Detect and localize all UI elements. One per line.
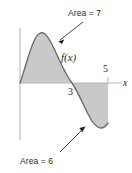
function-label: f(x) [61, 52, 76, 63]
area-top-label: Area = 7 [68, 9, 101, 18]
x-tick-label-3: 3 [68, 87, 73, 97]
figure-container: Area = 7 Area = 6 f(x) x 3 5 [0, 0, 132, 173]
area-7-arrow [58, 22, 83, 44]
area-under-curve-chart [0, 0, 132, 173]
x-axis-label: x [123, 78, 127, 88]
x-tick-label-5: 5 [103, 64, 108, 74]
lower-shaded-area [72, 83, 108, 128]
area-6-arrow [60, 126, 86, 152]
area-bottom-label: Area = 6 [20, 157, 53, 166]
